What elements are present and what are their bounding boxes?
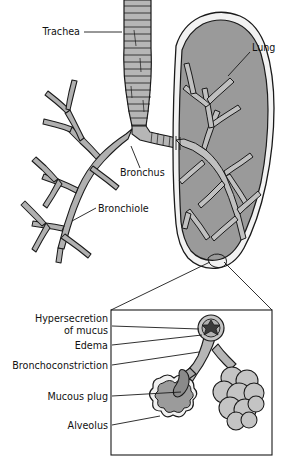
detail-labels: Hypersecretion of mucus Edema Bronchocon… — [12, 313, 108, 431]
alveolar-cluster-normal — [213, 367, 264, 430]
label-bronchiole: Bronchiole — [98, 203, 149, 214]
label-hypersecretion-line1: Hypersecretion — [35, 313, 108, 324]
bronchus-graphic — [132, 126, 176, 148]
label-alveolus: Alveolus — [68, 420, 108, 431]
label-bronchoconstriction: Bronchoconstriction — [12, 360, 108, 371]
label-mucous-plug: Mucous plug — [47, 391, 108, 402]
callout-cone — [111, 262, 272, 310]
trachea-graphic — [124, 0, 152, 126]
leader-alveolus — [112, 416, 160, 425]
leader-edema — [112, 335, 202, 345]
detail-graphic — [150, 315, 265, 430]
alveolus-graphic — [150, 375, 197, 417]
leader-bronchus — [131, 146, 140, 168]
bronchial-tree-left — [21, 80, 132, 263]
respiratory-diagram: Trachea Lung Bronchus Bronchiole — [0, 0, 296, 469]
leader-hypersecretion — [112, 326, 199, 329]
leader-bronchoconstriction — [112, 352, 199, 365]
label-hypersecretion-line2: of mucus — [64, 325, 108, 336]
label-trachea: Trachea — [42, 26, 80, 37]
label-edema: Edema — [75, 340, 108, 351]
label-lung: Lung — [252, 42, 275, 53]
label-bronchus: Bronchus — [120, 167, 165, 178]
